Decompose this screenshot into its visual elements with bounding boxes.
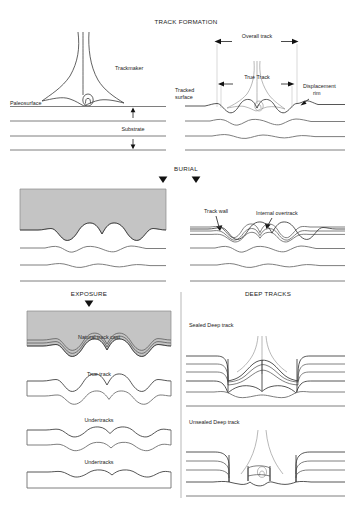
exposure-down-arrow — [85, 301, 94, 308]
unsealed-track-floor — [186, 481, 345, 485]
diagram-canvas: TRACK FORMATION Trackmaker Paleosurface … — [0, 0, 352, 510]
label-tracked-surface-line2: surface — [175, 94, 193, 100]
track-formation-figure: TRACK FORMATION Trackmaker Paleosurface … — [0, 0, 352, 510]
label-tracked-surface-line1: Tracked — [175, 87, 194, 93]
unsealed-deep-track-group: Unsealed Deep track — [186, 419, 345, 496]
unsealed-stratum-1-left — [186, 452, 229, 482]
tracked-surface-profile — [185, 99, 345, 112]
burial-right-panel: Track wall Internal overtrack — [190, 208, 345, 281]
undertracks-slab-upper: Undertracks — [27, 417, 171, 451]
unsealed-stratum-2-left — [186, 461, 229, 474]
label-true-track-exposure: True track — [87, 371, 111, 377]
undertracks-lower-top — [27, 470, 171, 477]
undertrack-line-2 — [185, 135, 345, 139]
trackmaker-ghost — [227, 61, 285, 111]
section-title-deep-tracks: DEEP TRACKS — [245, 290, 291, 297]
label-paleosurface: Paleosurface — [10, 100, 41, 106]
label-track-wall: Track wall — [204, 208, 228, 214]
sealed-stratum-1 — [186, 356, 345, 381]
track-formation-right-panel: Overall track True Track Tracked surface… — [175, 33, 345, 150]
unsealed-stratum-3-left — [186, 470, 229, 478]
true-track-bottom-surface — [27, 391, 171, 404]
true-track-bracket — [218, 81, 295, 108]
internal-lamina-3 — [190, 232, 345, 242]
unsealed-stratum-3-right — [296, 470, 345, 478]
section-title-burial: BURIAL — [174, 165, 198, 172]
sealed-deep-track-group: Sealed Deep track — [186, 322, 345, 406]
sealed-track-floor — [186, 381, 345, 393]
label-overall-track: Overall track — [242, 33, 273, 39]
burial-left-panel — [20, 189, 166, 281]
overall-track-bracket — [215, 39, 299, 107]
label-undertracks-lower: Undertracks — [84, 459, 113, 465]
deep-tracks-panel: Sealed Deep track — [186, 322, 345, 496]
unsealed-stratum-2-right — [296, 461, 345, 474]
sealed-stratum-3 — [186, 370, 345, 385]
undertracks-upper-bottom — [27, 442, 171, 450]
label-true-track: True Track — [244, 74, 270, 80]
burial-sediment-blanket — [20, 189, 166, 240]
unsealed-stratum-1-right — [296, 452, 345, 482]
label-unsealed-deep-track: Unsealed Deep track — [189, 419, 240, 425]
track-formation-left-panel: Trackmaker Paleosurface Substrate — [10, 32, 166, 150]
undertracks-slab-lower: Undertracks — [27, 459, 171, 488]
label-displacement-rim-line1: Displacement — [303, 83, 336, 89]
burial-undertrack-1 — [20, 246, 166, 252]
undertracks-upper-top — [27, 427, 171, 437]
true-track-slab: True track — [27, 371, 171, 404]
label-internal-overtrack: Internal overtrack — [256, 210, 298, 216]
trackmaker-silhouette — [42, 32, 124, 106]
label-sealed-deep-track: Sealed Deep track — [189, 322, 234, 328]
burial-right-undertrack-2 — [190, 264, 345, 268]
section-title-track-formation: TRACK FORMATION — [154, 18, 217, 25]
section-title-exposure: EXPOSURE — [71, 290, 107, 297]
undertrack-line-1 — [185, 119, 345, 125]
label-substrate: Substrate — [121, 126, 144, 132]
burial-right-undertrack-1 — [190, 246, 345, 252]
sealed-stratum-2 — [186, 364, 345, 382]
burial-undertrack-2 — [20, 264, 166, 268]
unsealed-limb-digit — [257, 467, 266, 478]
exposure-panel: Natural track cast True track Undertrack… — [27, 311, 171, 488]
sealed-undertrack — [186, 392, 345, 398]
burial-down-arrows — [159, 177, 201, 184]
label-trackmaker: Trackmaker — [115, 65, 143, 71]
track-wall-pointer — [216, 216, 222, 231]
label-displacement-rim-line2: rim — [313, 90, 321, 96]
label-undertracks-upper: Undertracks — [84, 417, 113, 423]
sealed-limb-left — [237, 336, 258, 372]
